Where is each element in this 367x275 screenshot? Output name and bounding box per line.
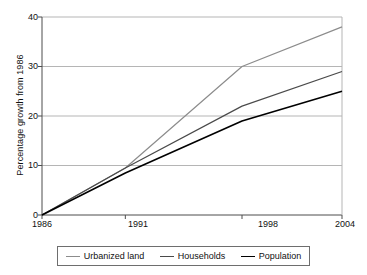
legend-line-icon-urbanized-land bbox=[66, 256, 80, 257]
x-axis-ticks bbox=[42, 215, 342, 219]
legend-item-population: Population bbox=[239, 251, 304, 261]
legend-item-urbanized-land: Urbanized land bbox=[64, 251, 147, 261]
legend-line-icon-population bbox=[241, 256, 255, 257]
legend-item-households: Households bbox=[158, 251, 228, 261]
series-line-urbanized-land bbox=[42, 27, 342, 215]
plot-area bbox=[0, 0, 367, 275]
legend-line-icon-households bbox=[160, 256, 174, 257]
legend-label-urbanized-land: Urbanized land bbox=[84, 251, 145, 261]
legend-label-households: Households bbox=[178, 251, 226, 261]
data-series bbox=[42, 27, 342, 215]
line-chart: Percentage growth from 1986 40 30 20 10 … bbox=[0, 0, 367, 275]
y-axis-ticks bbox=[38, 17, 42, 215]
legend-label-population: Population bbox=[259, 251, 302, 261]
legend: Urbanized land Households Population bbox=[57, 246, 310, 266]
